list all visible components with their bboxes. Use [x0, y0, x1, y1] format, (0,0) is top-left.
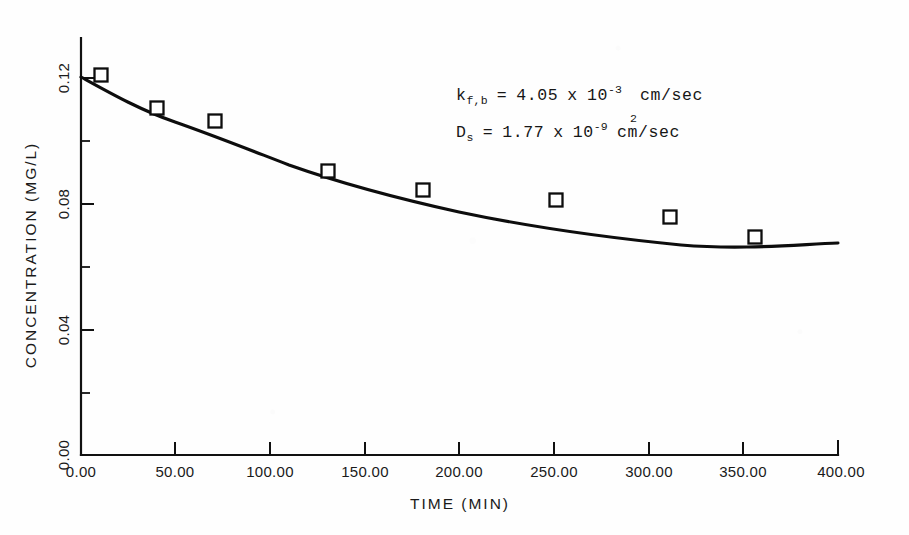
kfb-units: cm/sec [640, 86, 703, 105]
kfb-exponent: -3 [608, 83, 622, 96]
ds-base: 10 [573, 123, 594, 142]
x-tick-label: 50.00 [155, 463, 194, 480]
kfb-equals: = [497, 86, 508, 105]
annotation-surface-diffusivity: Ds=1.77x10-9cm2/sec [456, 120, 680, 144]
x-tick-label: 100.00 [246, 463, 294, 480]
x-tick-label: 350.00 [719, 463, 767, 480]
ds-units-base: cm [617, 123, 638, 142]
x-tick-label: 150.00 [341, 463, 389, 480]
y-axis-title: CONCENTRATION (MG/L) [22, 142, 40, 369]
kfb-base: 10 [587, 86, 608, 105]
data-point-marker [95, 69, 108, 82]
kfb-subscript: f,b [467, 94, 488, 107]
kfb-symbol: k [456, 86, 467, 105]
data-point-marker [209, 115, 222, 128]
annotation-mass-transfer-coefficient: kf,b=4.05x10-3cm/sec [456, 83, 703, 107]
x-tick-label: 300.00 [625, 463, 673, 480]
data-point-marker [322, 165, 335, 178]
y-tick-label: 0.04 [55, 315, 72, 345]
ds-exponent: -9 [594, 120, 608, 133]
data-point-marker [664, 211, 677, 224]
x-tick-label: 400.00 [817, 463, 865, 480]
y-tick-label: 0.00 [55, 440, 72, 470]
figure-canvas: 0.00 50.00 100.00 150.00 200.00 250.00 3… [0, 0, 909, 535]
ds-equals: = [483, 123, 494, 142]
data-point-marker [550, 194, 563, 207]
ds-mantissa: 1.77 [502, 123, 544, 142]
kfb-mantissa: 4.05 [516, 86, 558, 105]
data-point-marker [749, 231, 762, 244]
ds-subscript: s [467, 131, 474, 144]
ds-times: x [553, 123, 564, 142]
kfb-times: x [567, 86, 578, 105]
x-tick-label: 250.00 [530, 463, 578, 480]
ds-units-exponent: 2 [630, 112, 638, 125]
plot-area [0, 0, 909, 535]
x-axis-title: TIME (MIN) [410, 495, 510, 513]
y-tick-label: 0.08 [55, 189, 72, 219]
y-tick-label: 0.12 [55, 63, 72, 93]
ds-units-tail: /sec [638, 123, 680, 142]
data-point-marker [151, 102, 164, 115]
ds-units: cm2 [617, 123, 638, 142]
data-point-marker [417, 184, 430, 197]
x-tick-label: 200.00 [435, 463, 483, 480]
ds-symbol: D [456, 123, 467, 142]
